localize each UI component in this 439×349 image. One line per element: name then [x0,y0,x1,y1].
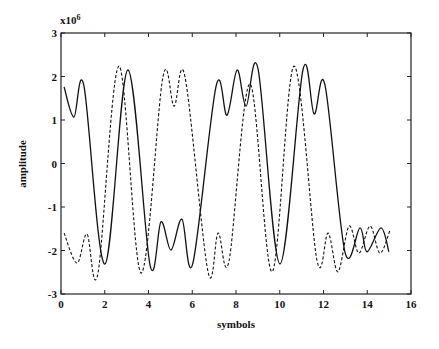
y-scale-label: x106 [60,13,81,26]
x-tick-label: 8 [233,298,239,310]
y-tick-label: 1 [52,114,58,126]
x-tick-label: 12 [318,298,330,310]
x-tick-label: 10 [274,298,286,310]
y-tick-label: -3 [48,288,58,300]
y-tick-label: 0 [52,158,58,170]
x-tick-label: 2 [102,298,108,310]
chart: 0246810121416 -3-2-10123 x106 symbols am… [0,0,439,349]
y-tick-label: -1 [48,201,57,213]
y-axis-label: amplitude [16,140,28,188]
x-tick-labels: 0246810121416 [58,298,417,310]
x-tick-label: 14 [362,298,374,310]
x-tick-label: 6 [190,298,196,310]
x-tick-label: 16 [406,298,418,310]
x-axis-label: symbols [217,318,256,330]
x-tick-label: 4 [146,298,152,310]
y-tick-label: 3 [52,27,58,39]
y-tick-labels: -3-2-10123 [48,27,58,300]
y-tick-label: 2 [52,71,58,83]
x-tick-label: 0 [58,298,64,310]
y-tick-label: -2 [48,245,58,257]
